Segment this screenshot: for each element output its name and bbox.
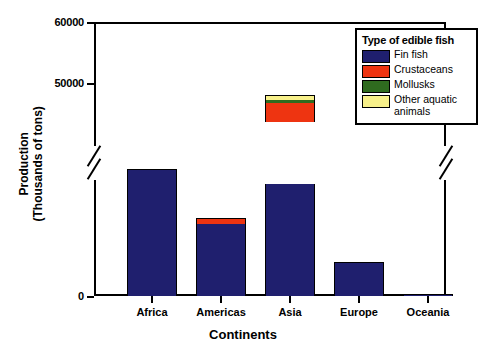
legend-title: Type of edible fish xyxy=(362,34,471,46)
y-axis-title-line2: (Thousands of tons) xyxy=(32,54,46,274)
legend-swatch-finfish xyxy=(362,50,390,63)
x-tick-asia xyxy=(289,296,291,303)
bar-americas xyxy=(196,218,246,296)
bar-segment-finfish-americas xyxy=(196,224,246,296)
legend-swatch-other-aquatic xyxy=(362,95,390,108)
legend-label-mollusks: Mollusks xyxy=(394,79,435,91)
y-axis-break-left xyxy=(81,146,107,180)
x-label-oceania: Oceania xyxy=(383,306,473,318)
y-tick-mark-0 xyxy=(87,296,94,298)
bar-segment-finfish-asia xyxy=(265,184,315,296)
y-tick-mark-50000 xyxy=(87,83,94,85)
legend-label-crustaceans: Crustaceans xyxy=(394,64,453,76)
x-tick-americas xyxy=(220,296,222,303)
bar-segment-finfish-europe xyxy=(334,262,384,296)
legend-label-other-aquatic-line2: animals xyxy=(394,105,430,117)
y-tick-mark-60000 xyxy=(87,22,94,24)
y-axis-break-right xyxy=(433,146,459,180)
legend-item-mollusks: Mollusks xyxy=(362,79,471,93)
legend-label-finfish: Fin fish xyxy=(394,49,428,61)
legend-item-finfish: Fin fish xyxy=(362,49,471,63)
x-tick-oceania xyxy=(427,296,429,303)
bar-segment-crustaceans-asia xyxy=(265,103,315,122)
bar-africa xyxy=(127,169,177,296)
legend-item-other-aquatic: Other aquatic animals xyxy=(362,94,471,117)
legend-item-crustaceans: Crustaceans xyxy=(362,64,471,78)
bar-segment-finfish-africa xyxy=(127,169,177,296)
x-tick-europe xyxy=(358,296,360,303)
chart-figure: 60000 50000 0 xyxy=(0,0,486,354)
x-tick-africa xyxy=(151,296,153,303)
bar-asia-upper xyxy=(265,95,315,122)
y-tick-label-0: 0 xyxy=(28,290,84,302)
legend-swatch-mollusks xyxy=(362,80,390,93)
legend-box: Type of edible fish Fin fish Crustaceans… xyxy=(355,28,478,125)
y-tick-label-60000: 60000 xyxy=(28,16,84,28)
bar-segment-crustaceans-americas xyxy=(196,218,246,224)
legend-label-other-aquatic: Other aquatic animals xyxy=(394,94,457,117)
legend-label-other-aquatic-line1: Other aquatic xyxy=(394,93,457,105)
y-axis-title-line1: Production xyxy=(18,54,32,274)
y-axis-title: Production (Thousands of tons) xyxy=(18,54,46,274)
bar-asia xyxy=(265,154,315,296)
bar-europe xyxy=(334,262,384,296)
legend-swatch-crustaceans xyxy=(362,65,390,78)
x-axis-title: Continents xyxy=(0,327,486,342)
